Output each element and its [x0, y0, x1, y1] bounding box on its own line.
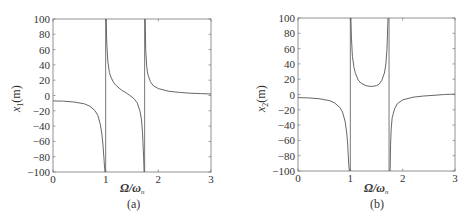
y-tick-label: 60	[39, 44, 51, 56]
y-tick-label: 20	[284, 73, 296, 85]
curve-segment	[145, 19, 211, 94]
y-tick-label: 100	[279, 12, 296, 24]
y-tick-label: 40	[39, 59, 51, 71]
x-tick-label: 0	[50, 173, 56, 185]
x-axis-label-a: Ω/ωn	[120, 181, 145, 196]
plot-frame-b	[298, 18, 455, 171]
curve-segment	[351, 18, 388, 87]
curve-segment	[298, 98, 349, 171]
curve-segment	[53, 101, 105, 172]
y-tick-label: 60	[284, 43, 296, 55]
panel-caption-a: (a)	[127, 197, 140, 211]
y-tick-label: 0	[45, 90, 51, 102]
y-tick-label: −20	[33, 105, 51, 117]
y-tick-label: 100	[34, 13, 51, 25]
y-tick-label: −100	[272, 165, 295, 177]
x-tick-label: 2	[400, 172, 406, 184]
y-tick-label: −40	[33, 120, 51, 132]
y-tick-label: −80	[278, 150, 296, 162]
y-tick-label: −100	[27, 166, 50, 178]
curve-x1	[53, 19, 211, 172]
y-tick-label: 80	[284, 27, 296, 39]
x-tick-label: 1	[348, 172, 354, 184]
panel-caption-b: (b)	[370, 197, 384, 211]
x-tick-label: 3	[452, 172, 458, 184]
y-tick-label: 0	[290, 89, 296, 101]
x-tick-label: 0	[295, 172, 301, 184]
curve-x2	[298, 18, 455, 171]
y-axis-label-b: x2(m)	[254, 85, 270, 113]
axis-ticks-a: 100806040200−20−40−60−80−1000123	[27, 13, 214, 185]
chart-panel-b: 100806040200−20−40−60−80−1000123 x2(m) Ω…	[254, 12, 458, 211]
y-tick-label: 20	[39, 74, 51, 86]
y-tick-label: −60	[278, 134, 296, 146]
y-tick-label: −20	[278, 104, 296, 116]
x-tick-label: 1	[103, 173, 109, 185]
y-tick-label: −80	[33, 151, 51, 163]
x-axis-label-b: Ω/ωn	[364, 181, 389, 196]
plot-frame-a	[53, 19, 211, 172]
x-tick-label: 2	[156, 173, 162, 185]
curve-segment	[106, 19, 144, 172]
y-tick-label: 40	[284, 58, 296, 70]
x-tick-label: 3	[208, 173, 214, 185]
y-tick-label: −60	[33, 135, 51, 147]
chart-panel-a: 100806040200−20−40−60−80−1000123 x1(m) Ω…	[9, 13, 214, 211]
figure: 100806040200−20−40−60−80−1000123 x1(m) Ω…	[0, 0, 465, 223]
y-tick-label: −40	[278, 119, 296, 131]
curve-segment	[390, 94, 455, 171]
y-tick-label: 80	[39, 28, 51, 40]
y-axis-label-a: x1(m)	[9, 85, 25, 113]
